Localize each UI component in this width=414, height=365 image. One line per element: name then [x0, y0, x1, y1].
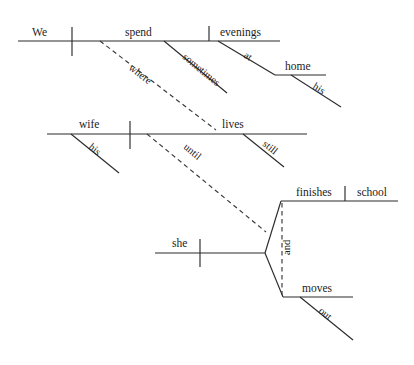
- word-she: she: [172, 237, 187, 249]
- word-out: out: [317, 305, 334, 322]
- dashed-connector-until: [147, 134, 266, 232]
- word-and: and: [281, 239, 292, 255]
- word-sometimes: sometimes: [181, 51, 223, 88]
- word-evenings: evenings: [220, 26, 261, 39]
- word-until: until: [182, 141, 204, 162]
- dashed-connector-where: [100, 41, 216, 130]
- fork-arm-upper: [265, 201, 281, 253]
- word-lives: lives: [222, 118, 244, 130]
- word-spend: spend: [125, 26, 152, 39]
- diagram-svg: We spend evenings where sometimes at hom…: [0, 0, 414, 365]
- slant-still: [243, 134, 284, 167]
- word-finishes: finishes: [296, 186, 332, 198]
- sentence-diagram-canvas: We spend evenings where sometimes at hom…: [0, 0, 414, 365]
- word-home: home: [285, 60, 311, 72]
- fork-arm-lower: [265, 253, 283, 297]
- word-we: We: [32, 26, 47, 38]
- word-school: school: [357, 186, 387, 198]
- word-where: where: [127, 62, 154, 87]
- word-his-home: his: [311, 80, 327, 96]
- word-at: at: [242, 49, 254, 62]
- word-moves: moves: [302, 282, 333, 294]
- word-his-wife: his: [87, 141, 103, 157]
- word-still: still: [261, 138, 280, 157]
- word-wife: wife: [79, 118, 99, 130]
